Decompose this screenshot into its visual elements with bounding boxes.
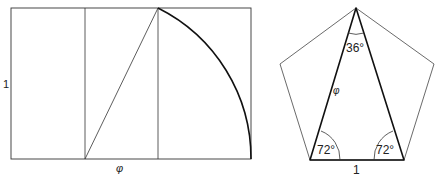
left-angle-label: 72°: [317, 143, 335, 157]
pentagon-outline: [280, 8, 434, 160]
outer-rectangle: [11, 8, 251, 159]
golden-arc: [158, 8, 251, 159]
height-label: 1: [3, 78, 9, 90]
apex-angle-label: 36°: [346, 41, 364, 55]
pentagon-figure: [280, 8, 434, 160]
right-angle-label: 72°: [376, 143, 394, 157]
apex-angle-arc: [348, 33, 364, 34]
side-label: φ: [333, 85, 340, 96]
golden-triangle: [310, 8, 404, 160]
base-label: 1: [353, 163, 360, 177]
golden-rectangle-figure: [11, 8, 251, 159]
diagonal-line: [85, 8, 158, 159]
width-label: φ: [116, 162, 123, 174]
golden-ratio-diagram: 1 φ 36° 72° 72° φ 1: [0, 0, 439, 177]
